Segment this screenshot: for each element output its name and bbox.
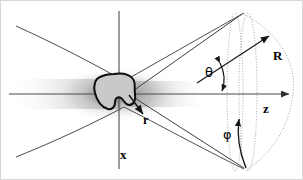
- figure-canvas: x z R r θ φ: [0, 0, 303, 180]
- axis-label-z: z: [263, 102, 269, 115]
- vector-label-R: R: [273, 49, 282, 62]
- angle-label-phi: φ: [223, 128, 232, 141]
- particle-outline: [94, 74, 135, 110]
- scattering-particle-group: [94, 74, 135, 110]
- detection-sphere-group: [227, 13, 294, 171]
- meridian-ellipse-near: [227, 13, 243, 171]
- meridian-ellipse-far: [239, 13, 257, 171]
- vector-label-r: r: [143, 114, 148, 126]
- angle-label-theta: θ: [205, 66, 213, 79]
- beam-envelope-upper-right: [124, 13, 244, 81]
- axis-label-x: x: [120, 148, 127, 161]
- schematic-svg: [1, 1, 303, 180]
